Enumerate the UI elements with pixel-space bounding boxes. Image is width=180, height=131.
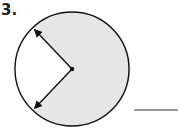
center-point — [70, 67, 75, 72]
circle-diagram — [0, 0, 180, 131]
